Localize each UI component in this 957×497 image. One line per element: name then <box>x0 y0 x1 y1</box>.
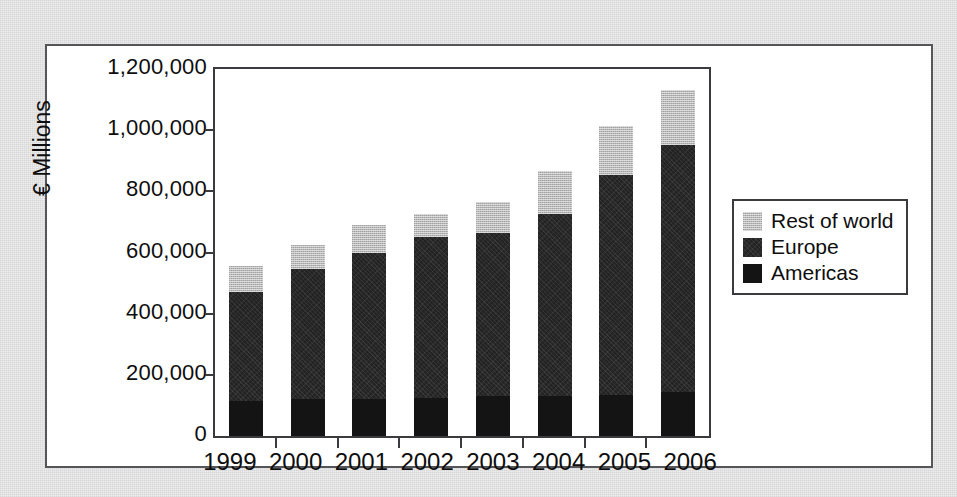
x-axis-tick-mark <box>584 436 586 448</box>
bar-segment-americas-2006 <box>661 392 695 436</box>
y-axis-tick-label: 1,200,000 <box>107 54 207 80</box>
bar-segment-europe-2002 <box>414 237 448 398</box>
y-axis-tick-mark <box>205 374 215 376</box>
y-axis-tick-label: 800,000 <box>126 176 207 202</box>
x-axis-tick-label-1999: 1999 <box>199 448 261 476</box>
y-axis-tick-label: 600,000 <box>126 238 207 264</box>
bar-segment-rest-of-world-2006 <box>661 90 695 145</box>
bar-group-2006 <box>661 69 695 436</box>
bar-segment-europe-2003 <box>476 233 510 397</box>
bar-segment-rest-of-world-2002 <box>414 214 448 237</box>
bar-segment-rest-of-world-2001 <box>352 225 386 253</box>
bar-segment-rest-of-world-2003 <box>476 202 510 233</box>
x-axis-tick-labels: 19992000200120022003200420052006 <box>197 448 723 476</box>
legend-swatch-icon <box>743 264 762 283</box>
x-axis-tick-label-2002: 2002 <box>396 448 458 476</box>
legend-swatch-icon <box>743 238 762 257</box>
x-axis-tick-label-2005: 2005 <box>593 448 655 476</box>
x-axis-tick-label-2004: 2004 <box>528 448 590 476</box>
y-axis-tick-mark <box>205 129 215 131</box>
bar-segment-americas-2001 <box>352 399 386 436</box>
bar-group-2004 <box>538 69 572 436</box>
y-axis-tick-mark <box>205 190 215 192</box>
y-axis-tick-label: 0 <box>195 421 207 447</box>
legend-swatch-icon <box>743 212 762 231</box>
bar-segment-rest-of-world-2005 <box>599 126 633 175</box>
y-axis-tick-mark <box>205 252 215 254</box>
x-axis-tick-label-2000: 2000 <box>265 448 327 476</box>
x-axis-tick-mark <box>275 436 277 448</box>
bar-segment-europe-2006 <box>661 145 695 391</box>
legend-item-rest-of-world: Rest of world <box>743 208 894 234</box>
bar-group-2005 <box>599 69 633 436</box>
bar-group-2000 <box>291 69 325 436</box>
x-axis-tick-mark <box>337 436 339 448</box>
legend-label: Rest of world <box>771 209 894 233</box>
x-axis-tick-mark <box>398 436 400 448</box>
y-axis-tick-label: 200,000 <box>126 360 207 386</box>
bar-segment-europe-2004 <box>538 214 572 396</box>
bar-segment-europe-1999 <box>229 292 263 401</box>
figure-frame: € Millions 0200,000400,000600,000800,000… <box>45 44 933 468</box>
y-axis-tick-labels: 0200,000400,000600,000800,0001,000,0001,… <box>47 67 207 434</box>
bar-segment-americas-1999 <box>229 401 263 436</box>
x-axis-tick-label-2003: 2003 <box>462 448 524 476</box>
chart-legend: Rest of worldEuropeAmericas <box>732 199 908 295</box>
x-axis-tick-marks <box>213 436 707 448</box>
bar-group-2003 <box>476 69 510 436</box>
x-axis-tick-mark <box>645 436 647 448</box>
bar-segment-americas-2002 <box>414 398 448 436</box>
bar-group-2001 <box>352 69 386 436</box>
bar-segment-americas-2005 <box>599 395 633 436</box>
legend-item-europe: Europe <box>743 234 894 260</box>
bar-segment-rest-of-world-2000 <box>291 245 325 269</box>
legend-label: Europe <box>771 235 839 259</box>
plot-area <box>213 67 711 438</box>
bar-segment-americas-2003 <box>476 396 510 436</box>
bar-segment-rest-of-world-2004 <box>538 171 572 214</box>
bar-segment-europe-2001 <box>352 253 386 400</box>
legend-label: Americas <box>771 261 859 285</box>
bar-segment-americas-2004 <box>538 396 572 436</box>
chart-page: € Millions 0200,000400,000600,000800,000… <box>0 0 957 497</box>
bars-layer <box>215 69 709 436</box>
bar-group-1999 <box>229 69 263 436</box>
bar-group-2002 <box>414 69 448 436</box>
y-axis-tick-label: 1,000,000 <box>107 115 207 141</box>
y-axis-tick-label: 400,000 <box>126 299 207 325</box>
bar-segment-rest-of-world-1999 <box>229 266 263 292</box>
bar-segment-europe-2000 <box>291 269 325 399</box>
bar-segment-europe-2005 <box>599 175 633 395</box>
x-axis-tick-mark <box>460 436 462 448</box>
x-axis-tick-mark <box>522 436 524 448</box>
bar-segment-americas-2000 <box>291 399 325 436</box>
x-axis-tick-label-2001: 2001 <box>330 448 392 476</box>
x-axis-tick-label-2006: 2006 <box>659 448 721 476</box>
y-axis-tick-mark <box>205 313 215 315</box>
legend-item-americas: Americas <box>743 260 894 286</box>
